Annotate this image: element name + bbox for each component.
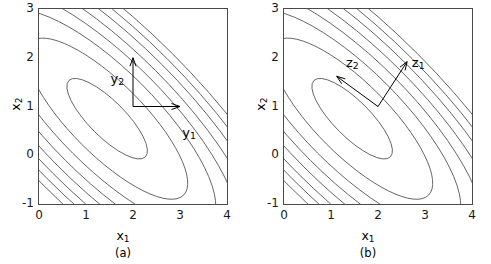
vector-label-z1: z1 [412, 55, 425, 71]
panel-caption-a: (a) [0, 246, 246, 260]
vector-label-y2: y2 [110, 71, 124, 87]
contour-svg-a [39, 9, 227, 204]
contour-line [284, 9, 472, 204]
vector-label-z1-base: z [412, 55, 419, 70]
vector-label-y1-base: y [182, 125, 190, 140]
panel-b: z1z2 3210-1 01234 x1 x2 (b) [245, 0, 491, 264]
y-tick-a-0: 3 [8, 2, 34, 14]
y-axis-label-sub-a: 2 [14, 98, 24, 104]
contour-svg-b [284, 9, 472, 204]
vector-label-z2: z2 [346, 55, 359, 71]
x-axis-label-base-b: x [361, 228, 368, 243]
plot-area-b: z1z2 [283, 8, 473, 205]
contour-line [56, 68, 158, 170]
y-axis-label-a: x2 [8, 84, 24, 124]
y-tick-b-4: -1 [253, 197, 279, 209]
vector-label-y1: y1 [182, 125, 196, 141]
x-tick-labels-a: 01234 [0, 209, 246, 227]
vector-label-y2-base: y [110, 71, 118, 86]
x-axis-label-sub-a: 1 [124, 234, 130, 244]
y-tick-b-1: 2 [253, 51, 279, 63]
x-tick-labels-b: 01234 [245, 209, 491, 227]
contour-line [301, 68, 403, 170]
contour-line [39, 9, 227, 204]
x-axis-label-a: x1 [0, 228, 246, 244]
x-tick-a-0: 0 [27, 209, 51, 221]
vector-label-z2-base: z [346, 55, 353, 70]
vector-label-z2-sub: 2 [353, 60, 359, 71]
x-tick-a-3: 3 [168, 209, 192, 221]
y-axis-label-b: x2 [253, 84, 269, 124]
x-axis-label-base-a: x [116, 228, 123, 243]
vector-label-y1-sub: 1 [190, 130, 196, 141]
vector-label-z1-sub: 1 [419, 61, 425, 72]
y-tick-b-0: 3 [253, 2, 279, 14]
panel-caption-b: (b) [245, 246, 491, 260]
x-tick-a-4: 4 [215, 209, 239, 221]
y-tick-b-3: 0 [253, 148, 279, 160]
y-tick-a-4: -1 [8, 197, 34, 209]
x-tick-a-2: 2 [121, 209, 145, 221]
x-tick-b-4: 4 [460, 209, 484, 221]
contour-figure: y1y2 3210-1 01234 x1 x2 (a) z1z2 3210-1 … [0, 0, 491, 264]
y-tick-a-1: 2 [8, 51, 34, 63]
plot-area-a: y1y2 [38, 8, 228, 205]
x-tick-b-1: 1 [319, 209, 343, 221]
x-tick-b-3: 3 [413, 209, 437, 221]
x-axis-label-b: x1 [245, 228, 491, 244]
vector-label-y2-sub: 2 [118, 77, 124, 88]
panel-a: y1y2 3210-1 01234 x1 x2 (a) [0, 0, 246, 264]
y-axis-label-sub-b: 2 [259, 98, 269, 104]
y-axis-label-base-a: x [8, 103, 23, 110]
y-tick-a-3: 0 [8, 148, 34, 160]
x-tick-a-1: 1 [74, 209, 98, 221]
x-tick-b-2: 2 [366, 209, 390, 221]
y-axis-label-base-b: x [253, 103, 268, 110]
x-axis-label-sub-b: 1 [369, 234, 375, 244]
x-tick-b-0: 0 [272, 209, 296, 221]
